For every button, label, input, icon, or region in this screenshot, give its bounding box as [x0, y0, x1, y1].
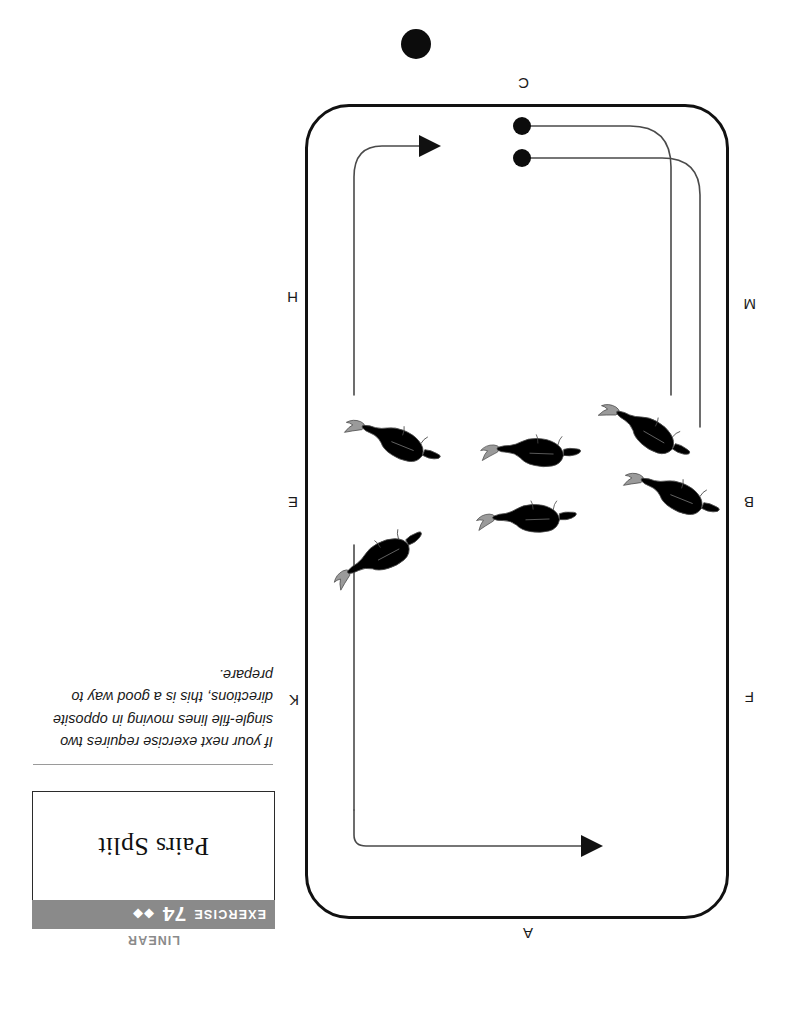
page-title: Pairs Split	[98, 831, 209, 861]
arena-letter-M: M	[743, 297, 756, 312]
category-label: LINEAR	[32, 933, 275, 947]
arena-letter-F: F	[744, 690, 754, 705]
arena-letter-C: C	[518, 76, 529, 91]
arena-area: A F B M K E H C	[286, 0, 786, 1015]
caption-text: If your next exercise requires two singl…	[32, 663, 273, 753]
dressage-arena-outline	[305, 104, 729, 919]
difficulty-diamonds-icon: ◆◆	[132, 908, 154, 921]
arena-letter-E: E	[287, 495, 298, 510]
arena-letter-A: A	[522, 926, 533, 941]
arena-letter-B: B	[743, 495, 754, 510]
exercise-number: 74	[163, 904, 186, 925]
exercise-band: EXERCISE 74 ◆◆	[32, 900, 275, 929]
arena-letter-K: K	[288, 693, 299, 708]
caption-column: LINEAR EXERCISE 74 ◆◆ Pairs Split If you…	[0, 0, 289, 1015]
title-box: Pairs Split	[32, 791, 275, 900]
page-marker-dot	[401, 29, 431, 59]
caption-divider	[33, 764, 273, 765]
scanned-page: A F B M K E H C	[0, 0, 786, 1015]
exercise-word: EXERCISE	[193, 908, 266, 922]
